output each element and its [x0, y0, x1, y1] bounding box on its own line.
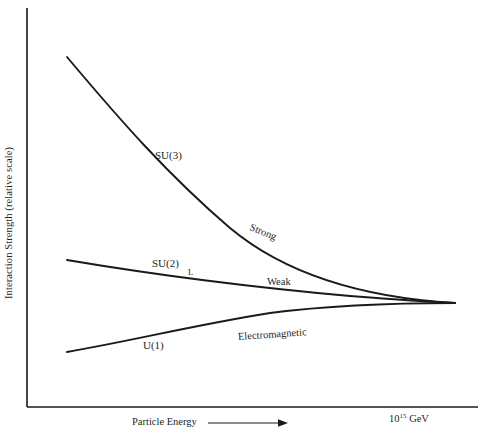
- x-axis-title: Particle Energy: [132, 417, 197, 428]
- curve-su3-strong: [67, 57, 455, 303]
- x-axis-endpoint-unit: GeV: [407, 413, 429, 424]
- curve-label-weak: Weak: [267, 277, 291, 288]
- curve-label-su3: SU(3): [155, 150, 182, 161]
- curve-label-u1: U(1): [143, 340, 164, 351]
- curve-label-su2: SU(2): [152, 258, 179, 269]
- curve-label-su2-subscript: L: [188, 268, 193, 277]
- curve-u1-electromagnetic: [67, 303, 455, 352]
- y-axis-title-text: Interaction Strength (relative scale): [4, 147, 15, 299]
- chart-canvas: [0, 0, 485, 445]
- y-axis-title: Interaction Strength (relative scale): [0, 148, 18, 298]
- x-axis-endpoint-exponent: 15: [400, 412, 407, 420]
- x-axis-endpoint-base: 10: [389, 413, 400, 424]
- coupling-constant-unification-figure: Interaction Strength (relative scale) Pa…: [0, 0, 485, 445]
- arrow-right-icon: [208, 419, 288, 427]
- x-axis-endpoint-label: 1015 GeV: [389, 414, 429, 425]
